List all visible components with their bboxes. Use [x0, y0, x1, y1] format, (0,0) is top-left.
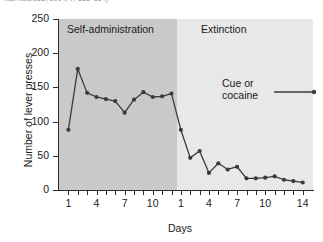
x-axis-tick: [172, 191, 173, 195]
x-axis-tick: [209, 191, 210, 195]
data-point: [301, 180, 305, 184]
data-point: [291, 179, 295, 183]
x-axis-tick-label: 4: [199, 197, 219, 209]
y-axis-tick-label: 100: [31, 115, 49, 127]
x-axis-tick: [237, 191, 238, 195]
data-point: [94, 95, 98, 99]
data-point: [263, 176, 267, 180]
data-point: [254, 176, 258, 180]
legend-label: Cue or cocaine: [222, 78, 258, 101]
x-axis-tick: [218, 191, 219, 195]
data-point: [123, 111, 127, 115]
x-axis-tick: [256, 191, 257, 195]
data-point: [160, 94, 164, 98]
y-axis-tick: [53, 122, 58, 123]
x-axis-tick: [143, 191, 144, 195]
data-point: [85, 91, 89, 95]
x-axis-tick: [97, 191, 98, 195]
x-axis-tick: [200, 191, 201, 195]
x-axis-tick: [181, 191, 182, 195]
x-axis-tick-label: 7: [115, 197, 135, 209]
x-axis-tick: [68, 191, 69, 195]
y-axis-tick: [53, 53, 58, 54]
y-axis-tick-label: 250: [31, 12, 49, 24]
data-point: [141, 90, 145, 94]
y-axis-tick: [53, 190, 58, 191]
y-axis-tick-label: 50: [37, 149, 49, 161]
x-axis-tick: [87, 191, 88, 195]
data-point: [169, 91, 173, 95]
y-axis-tick-label: 200: [31, 46, 49, 58]
data-point: [226, 167, 230, 171]
y-axis-line: [58, 19, 59, 191]
data-point: [216, 161, 220, 165]
x-axis-tick: [78, 191, 79, 195]
data-point: [66, 128, 70, 132]
x-axis-tick: [284, 191, 285, 195]
x-axis-tick: [106, 191, 107, 195]
legend-label-line2: cocaine: [222, 89, 258, 101]
y-axis-tick-label: 0: [43, 183, 49, 195]
x-axis-tick: [162, 191, 163, 195]
x-axis-tick-label: 4: [87, 197, 107, 209]
x-axis-tick-label: 1: [58, 197, 78, 209]
x-axis-tick: [228, 191, 229, 195]
y-axis-tick-label: 150: [31, 80, 49, 92]
x-axis-tick-label: 10: [143, 197, 163, 209]
legend-swatch-cue-or-cocaine: [274, 88, 318, 96]
x-axis-tick: [115, 191, 116, 195]
x-axis-title: Days: [45, 222, 315, 234]
y-axis-tick: [53, 19, 58, 20]
x-axis-tick: [303, 191, 304, 195]
legend-label-line1: Cue or: [222, 77, 254, 89]
x-axis-tick: [247, 191, 248, 195]
data-point: [272, 174, 276, 178]
data-point: [104, 97, 108, 101]
x-axis-tick: [275, 191, 276, 195]
data-point: [188, 156, 192, 160]
lever-press-line-chart: Number of lever presses Days Self-admini…: [0, 0, 323, 242]
x-axis-tick: [190, 191, 191, 195]
x-axis-tick: [134, 191, 135, 195]
x-axis-tick-label: 1: [171, 197, 191, 209]
x-axis-tick: [153, 191, 154, 195]
legend: Cue or cocaine: [222, 78, 318, 108]
x-axis-tick-label: 14: [293, 197, 313, 209]
data-point: [282, 178, 286, 182]
data-point: [179, 128, 183, 132]
data-point: [132, 98, 136, 102]
data-point: [197, 149, 201, 153]
x-axis-tick-label: 10: [255, 197, 275, 209]
x-axis-tick: [293, 191, 294, 195]
data-point: [244, 176, 248, 180]
y-axis-tick: [53, 87, 58, 88]
y-axis-tick: [53, 156, 58, 157]
data-point: [76, 67, 80, 71]
x-axis-tick: [265, 191, 266, 195]
data-point: [113, 99, 117, 103]
data-point: [207, 171, 211, 175]
x-axis-tick-label: 7: [227, 197, 247, 209]
data-point: [235, 165, 239, 169]
data-point: [151, 95, 155, 99]
x-axis-tick: [125, 191, 126, 195]
